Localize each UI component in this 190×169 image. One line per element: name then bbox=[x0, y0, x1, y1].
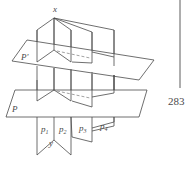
label-p4: p4 bbox=[99, 121, 108, 132]
diagram-figure: x y P' P p1 p2 p3 p4 283 bbox=[0, 0, 190, 169]
label-p-prime: P' bbox=[20, 52, 29, 62]
label-p2: p2 bbox=[58, 124, 67, 135]
plane-p-prime bbox=[12, 40, 154, 80]
label-x: x bbox=[52, 4, 57, 14]
page-number: 283 bbox=[168, 95, 185, 107]
page-labels: p1 p2 p3 p4 bbox=[40, 121, 108, 135]
plane-p bbox=[6, 90, 147, 117]
half-planes-diagram: x y P' P p1 p2 p3 p4 283 bbox=[0, 0, 190, 169]
label-y: y bbox=[48, 138, 53, 148]
label-p3: p3 bbox=[78, 123, 87, 134]
label-p: P bbox=[11, 104, 18, 114]
label-p1: p1 bbox=[40, 124, 49, 135]
